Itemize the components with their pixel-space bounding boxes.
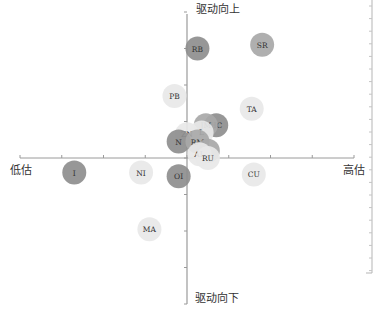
bubble-label: RU	[202, 154, 214, 163]
bubble-sr: SR	[250, 33, 274, 57]
axis-label-top: 驱动向上	[196, 2, 240, 16]
bubble-pb: PB	[162, 84, 186, 108]
bubble-label: N	[175, 138, 182, 147]
bubble-label: SR	[257, 41, 268, 50]
bubble-ru: RU	[196, 146, 220, 170]
bubble-label: NI	[136, 169, 146, 178]
bubble-i: I	[62, 161, 86, 185]
bubble-ni: NI	[129, 161, 153, 185]
bubble-rb: RB	[185, 37, 209, 61]
bubble-ta: TA	[240, 97, 264, 121]
bubble-label: I	[73, 169, 76, 178]
axis-label-left: 低估	[10, 164, 32, 177]
bubble-label: CU	[248, 170, 260, 179]
bubble-quadrant-chart: RBSRPBTAHCJMLZNNRMJALRUINIOICUMA 驱动向上 驱动…	[0, 0, 377, 312]
bubble-cu: CU	[242, 162, 266, 186]
bubble-label: MA	[143, 225, 157, 234]
bubble-label: RB	[192, 45, 204, 54]
axis-label-bottom: 驱动向下	[195, 291, 239, 305]
bubble-ma: MA	[137, 217, 161, 241]
right-edge-ruler	[366, 0, 372, 273]
axis-label-right: 高估	[343, 163, 365, 177]
bubble-label: PB	[169, 92, 180, 101]
axes	[20, 12, 354, 304]
bubble-label: TA	[247, 105, 258, 114]
bubbles: RBSRPBTAHCJMLZNNRMJALRUINIOICUMA	[62, 33, 274, 241]
bubble-label: OI	[174, 172, 183, 181]
bubble-oi: OI	[167, 164, 191, 188]
